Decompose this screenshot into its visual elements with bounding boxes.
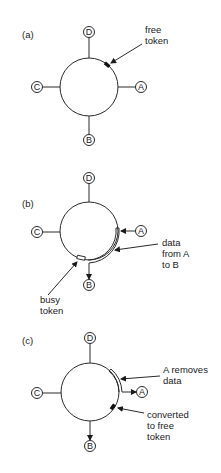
annotation-busy-token: busy token [40,294,63,316]
panel-b: (b) D B C A data [22,173,192,317]
panel-label: (a) [22,29,34,40]
remove-pointer [121,376,160,379]
panel-label: (c) [22,335,33,346]
svg-text:A: A [138,226,144,236]
node-b: B [85,441,96,452]
node-d: D [85,333,96,344]
converted-pointer [118,408,144,413]
svg-text:D: D [87,333,94,343]
node-b: B [84,280,95,291]
svg-text:B: B [87,441,93,451]
svg-text:D: D [86,27,93,37]
node-d: D [84,173,95,184]
free-token-pointer [111,44,142,63]
node-a: A [136,226,147,237]
annotation-a-removes-data: A removes data [163,364,211,386]
node-c: C [32,227,43,238]
node-a: A [136,82,147,93]
annotation-data-a-to-b: data from A to B [162,237,192,270]
node-d: D [84,27,95,38]
svg-text:A: A [138,82,144,92]
data-pointer [115,244,158,250]
panel-a: (a) D B C A free token [22,24,168,146]
annotation-free-token: free token [145,24,168,46]
svg-text:C: C [34,82,41,92]
ring [60,202,118,260]
panel-label: (b) [22,198,34,209]
busy-token-pointer [48,262,77,295]
svg-text:C: C [34,388,41,398]
svg-text:B: B [86,135,92,145]
panel-c: (c) D B C A A re [22,333,211,452]
svg-text:D: D [86,173,93,183]
node-a: A [137,387,148,398]
node-b: B [84,135,95,146]
svg-text:C: C [34,227,41,237]
svg-text:A: A [139,387,145,397]
svg-text:B: B [86,280,92,290]
token-ring-diagram: (a) D B C A free token [0,0,221,473]
node-c: C [32,388,43,399]
annotation-converted-free-token: converted to free token [147,409,191,442]
node-c: C [32,82,43,93]
